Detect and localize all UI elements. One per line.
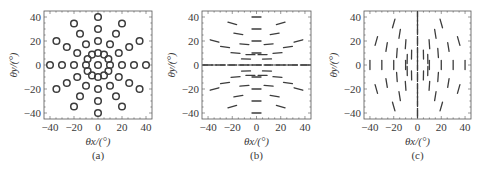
y-tick-label: 20 xyxy=(350,35,362,47)
y-tick-label: −20 xyxy=(24,83,42,95)
circle-marker xyxy=(53,86,60,93)
polarization-dash xyxy=(264,85,273,86)
y-axis-title: θy/(°) xyxy=(327,52,340,77)
polarization-dash xyxy=(399,29,400,38)
polarization-dash xyxy=(270,95,279,96)
polarization-dash xyxy=(448,79,449,88)
circle-marker xyxy=(95,98,102,105)
x-tick-label: 20 xyxy=(117,121,129,133)
circle-marker xyxy=(119,20,126,27)
polarization-dash xyxy=(221,82,230,83)
panel-label: (b) xyxy=(250,149,263,162)
x-tick-label: 20 xyxy=(275,121,287,133)
panel-a: −40−2002040−40−2002040θx/(°)θy/(°)(a) xyxy=(7,11,152,162)
circle-marker xyxy=(64,80,71,87)
x-tick-label: 0 xyxy=(415,121,421,133)
y-tick-label: 40 xyxy=(188,11,200,23)
polarization-dash xyxy=(435,92,436,101)
y-tick-label: 20 xyxy=(188,35,200,47)
y-tick-label: 0 xyxy=(194,59,200,71)
circle-marker xyxy=(74,50,81,57)
circle-marker xyxy=(71,62,78,69)
polarization-dash xyxy=(228,22,237,24)
polarization-dash xyxy=(438,73,439,82)
polarization-dash xyxy=(234,95,243,96)
polarization-dash xyxy=(429,81,430,90)
polarization-dash xyxy=(405,40,406,49)
polarization-dash xyxy=(392,102,394,111)
x-tick-label: −20 xyxy=(65,121,83,133)
x-tick-label: 40 xyxy=(460,121,472,133)
circle-marker xyxy=(95,26,102,33)
circle-marker xyxy=(126,80,133,87)
y-tick-label: 0 xyxy=(36,59,42,71)
x-tick-label: 0 xyxy=(254,121,260,133)
circle-marker xyxy=(126,44,133,51)
polarization-dash xyxy=(210,40,219,42)
polarization-dash xyxy=(240,44,249,45)
panel-label: (c) xyxy=(411,149,424,162)
polarization-dash xyxy=(438,49,439,58)
polarization-dash xyxy=(264,44,273,45)
polarization-dash xyxy=(399,92,400,101)
y-tick-label: 40 xyxy=(350,11,362,23)
circle-marker xyxy=(77,31,84,38)
y-tick-label: 40 xyxy=(30,11,42,23)
panel-label: (a) xyxy=(92,149,105,162)
polarization-dash xyxy=(386,43,387,52)
x-tick-label: 40 xyxy=(299,121,311,133)
y-axis-title: θy/(°) xyxy=(165,52,178,77)
y-tick-label: −20 xyxy=(182,83,200,95)
circle-marker xyxy=(77,93,84,100)
y-tick-label: −40 xyxy=(344,107,362,119)
polarization-dash xyxy=(221,46,230,47)
x-axis-title: θx/(°) xyxy=(244,135,269,148)
polarization-dash xyxy=(270,33,279,34)
circle-marker xyxy=(115,50,122,57)
polarization-dash xyxy=(294,40,303,42)
circle-marker xyxy=(95,38,102,45)
polarization-dash xyxy=(284,46,293,47)
circle-marker xyxy=(59,62,66,69)
polarization-dash xyxy=(392,19,394,28)
x-tick-label: −40 xyxy=(41,121,59,133)
circle-marker xyxy=(136,38,143,45)
polarization-dash xyxy=(276,22,285,24)
figure: −40−2002040−40−2002040θx/(°)θy/(°)(a) −4… xyxy=(0,0,478,171)
panel-b: −40−2002040−40−2002040θx/(°)θy/(°)(b) xyxy=(165,11,311,162)
polarization-dash xyxy=(397,49,398,58)
circle-marker xyxy=(107,41,114,48)
circle-marker xyxy=(131,62,138,69)
x-tick-label: −20 xyxy=(224,121,242,133)
circle-marker xyxy=(119,103,126,110)
circle-marker xyxy=(47,62,54,69)
y-tick-label: −40 xyxy=(182,107,200,119)
polarization-dash xyxy=(294,88,303,90)
circle-marker xyxy=(53,38,60,45)
plot-frame xyxy=(44,11,152,119)
circle-marker xyxy=(95,62,102,69)
polarization-dash xyxy=(429,40,430,49)
circle-marker xyxy=(64,44,71,51)
polarization-dash xyxy=(276,105,285,107)
x-tick-label: −40 xyxy=(361,121,379,133)
circle-marker xyxy=(115,74,122,81)
polarization-dash xyxy=(273,53,282,54)
polarization-dash xyxy=(375,37,377,46)
x-axis-title: θx/(°) xyxy=(85,135,110,148)
circle-marker xyxy=(113,93,120,100)
circle-marker xyxy=(95,110,102,117)
y-tick-label: −40 xyxy=(24,107,42,119)
polarization-dash xyxy=(284,82,293,83)
polarization-dash xyxy=(228,105,237,107)
circle-marker xyxy=(95,14,102,21)
polarization-dash xyxy=(440,102,442,111)
circle-marker xyxy=(107,82,114,89)
polarization-dash xyxy=(375,85,377,94)
polarization-dash xyxy=(240,85,249,86)
polarization-dash xyxy=(231,77,240,78)
circle-marker xyxy=(113,31,120,38)
circle-marker xyxy=(83,41,90,48)
polarization-dash xyxy=(386,79,387,88)
polarization-dash xyxy=(435,29,436,38)
